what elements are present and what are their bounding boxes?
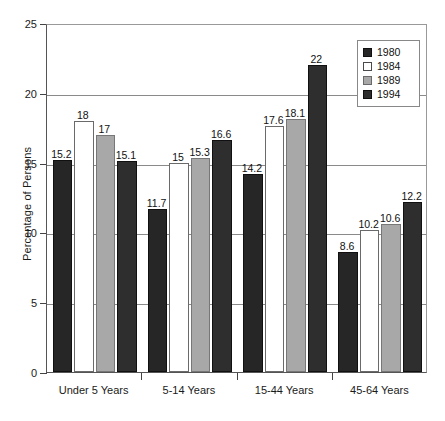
x-axis-tick — [141, 373, 142, 380]
bar-value-label: 16.6 — [211, 128, 231, 140]
legend-label: 1994 — [377, 89, 400, 100]
bar-value-label: 15.1 — [116, 149, 136, 161]
legend-swatch-icon — [363, 48, 372, 57]
legend-swatch-icon — [363, 62, 372, 71]
bar-value-label: 10.2 — [358, 218, 378, 230]
bar — [360, 230, 380, 372]
bar — [74, 121, 94, 372]
bar-value-label: 15.2 — [51, 148, 71, 160]
bar — [53, 160, 73, 372]
x-axis-category-label: 45-64 Years — [350, 384, 409, 396]
legend-item[interactable]: 1989 — [363, 73, 414, 87]
y-axis-title: Percentage of Persons — [21, 104, 33, 304]
legend-label: 1989 — [377, 75, 400, 86]
bar-value-label: 15 — [172, 151, 184, 163]
x-axis-tick — [237, 373, 238, 380]
bar-value-label: 12.2 — [401, 190, 421, 202]
bar — [403, 202, 423, 372]
y-axis-tick-label: 0 — [0, 367, 37, 379]
bar — [191, 158, 211, 372]
legend-label: 1980 — [377, 47, 400, 58]
bar-value-label: 17.6 — [263, 114, 283, 126]
y-axis-tick-label: 5 — [0, 297, 37, 309]
bar-value-label: 14.2 — [242, 162, 262, 174]
bar — [148, 209, 168, 372]
legend-item[interactable]: 1980 — [363, 45, 414, 59]
bar — [265, 126, 285, 372]
bar — [308, 65, 328, 372]
x-axis-tick — [332, 373, 333, 380]
bar-value-label: 10.6 — [380, 212, 400, 224]
legend-item[interactable]: 1984 — [363, 59, 414, 73]
chart-legend[interactable]: 1980198419891994 — [357, 40, 420, 107]
y-axis-tick-label: 25 — [0, 18, 37, 30]
bar — [212, 140, 232, 372]
bar-value-label: 8.6 — [340, 240, 355, 252]
bar — [117, 161, 137, 372]
y-axis-tick-label: 10 — [0, 227, 37, 239]
bar — [338, 252, 358, 372]
bar-value-label: 15.3 — [189, 146, 209, 158]
legend-label: 1984 — [377, 61, 400, 72]
bar-value-label: 11.7 — [147, 197, 167, 209]
y-axis-tick-label: 15 — [0, 158, 37, 170]
bar-value-label: 22 — [311, 53, 323, 65]
y-axis-tick-label: 20 — [0, 88, 37, 100]
legend-item[interactable]: 1994 — [363, 87, 414, 101]
bar — [169, 163, 189, 372]
bar-value-label: 18.1 — [285, 107, 305, 119]
x-axis-category-label: 15-44 Years — [255, 384, 314, 396]
bar-value-label: 18 — [77, 109, 89, 121]
x-axis-category-label: 5-14 Years — [163, 384, 216, 396]
bar-chart: Percentage of Persons 0510152025 Under 5… — [0, 0, 445, 421]
bar-value-label: 17 — [99, 123, 111, 135]
legend-swatch-icon — [363, 90, 372, 99]
x-axis-category-label: Under 5 Years — [59, 384, 129, 396]
bar — [96, 135, 116, 372]
bar — [286, 119, 306, 372]
y-axis-tick — [40, 373, 47, 374]
legend-swatch-icon — [363, 76, 372, 85]
bar — [381, 224, 401, 372]
bar — [243, 174, 263, 372]
